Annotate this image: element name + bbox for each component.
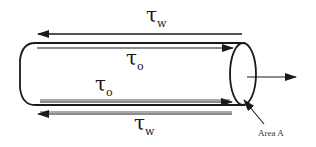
cylinder-shear-diagram: τw τo τo τw Area A — [0, 0, 316, 147]
label-tau-w-top: τw — [146, 3, 167, 30]
cylinder-end-face — [230, 43, 256, 105]
label-tau-w-bottom: τw — [134, 111, 155, 138]
label-tau-o-bottom: τo — [95, 72, 113, 99]
label-tau-o-top: τo — [126, 46, 144, 73]
area-pointer-arrow — [244, 100, 264, 124]
label-area-a: Area A — [258, 128, 284, 138]
